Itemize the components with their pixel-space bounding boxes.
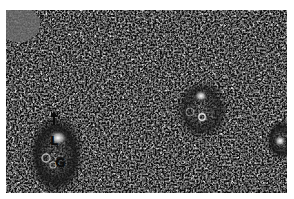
label-G: G (55, 156, 66, 169)
arrow-up-icon (49, 111, 59, 125)
label-L: L (50, 134, 58, 147)
cell-field-texture (6, 10, 287, 193)
micrograph-image (6, 10, 287, 193)
